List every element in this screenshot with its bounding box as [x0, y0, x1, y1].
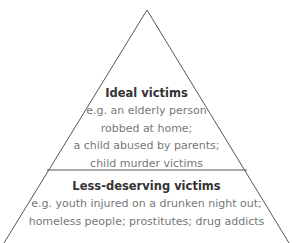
- tier-line: a child abused by parents;: [0, 137, 293, 155]
- tier-line: robbed at home;: [0, 120, 293, 138]
- tier-title: Less-deserving victims: [0, 178, 293, 195]
- tier-line: child murder victims: [0, 155, 293, 173]
- tier-line: homeless people; prostitutes; drug addic…: [0, 213, 293, 231]
- tier-ideal-victims: Ideal victims e.g. an elderly person rob…: [0, 85, 293, 172]
- tier-less-deserving-victims: Less-deserving victims e.g. youth injure…: [0, 178, 293, 230]
- tier-title: Ideal victims: [0, 85, 293, 102]
- tier-line: e.g. an elderly person: [0, 102, 293, 120]
- tier-line: e.g. youth injured on a drunken night ou…: [0, 195, 293, 213]
